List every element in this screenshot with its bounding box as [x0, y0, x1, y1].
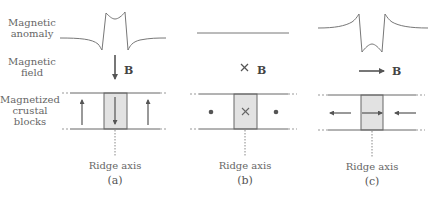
magnetization-dot-left-b	[209, 110, 214, 115]
ridge-axis-label-a: Ridge axis	[89, 160, 142, 171]
field-label-b: B	[257, 64, 266, 77]
diagram-canvas: B Ridge axis (a) B	[0, 0, 437, 197]
panel-b: B Ridge axis (b)	[190, 33, 297, 187]
panel-label-a: (a)	[107, 174, 122, 187]
field-label-a: B	[124, 64, 133, 77]
panel-a: B Ridge axis (a)	[60, 12, 168, 187]
panel-label-c: (c)	[365, 175, 380, 188]
anomaly-curve-a	[60, 12, 166, 50]
panel-c: B Ridge axis (c)	[318, 14, 428, 188]
field-label-c: B	[392, 65, 401, 78]
field-into-page-symbol-b	[241, 64, 248, 71]
anomaly-curve-c	[318, 14, 428, 52]
panel-label-b: (b)	[237, 174, 253, 187]
ridge-axis-label-c: Ridge axis	[346, 161, 399, 172]
ridge-axis-label-b: Ridge axis	[219, 160, 272, 171]
magnetization-dot-right-b	[274, 110, 279, 115]
